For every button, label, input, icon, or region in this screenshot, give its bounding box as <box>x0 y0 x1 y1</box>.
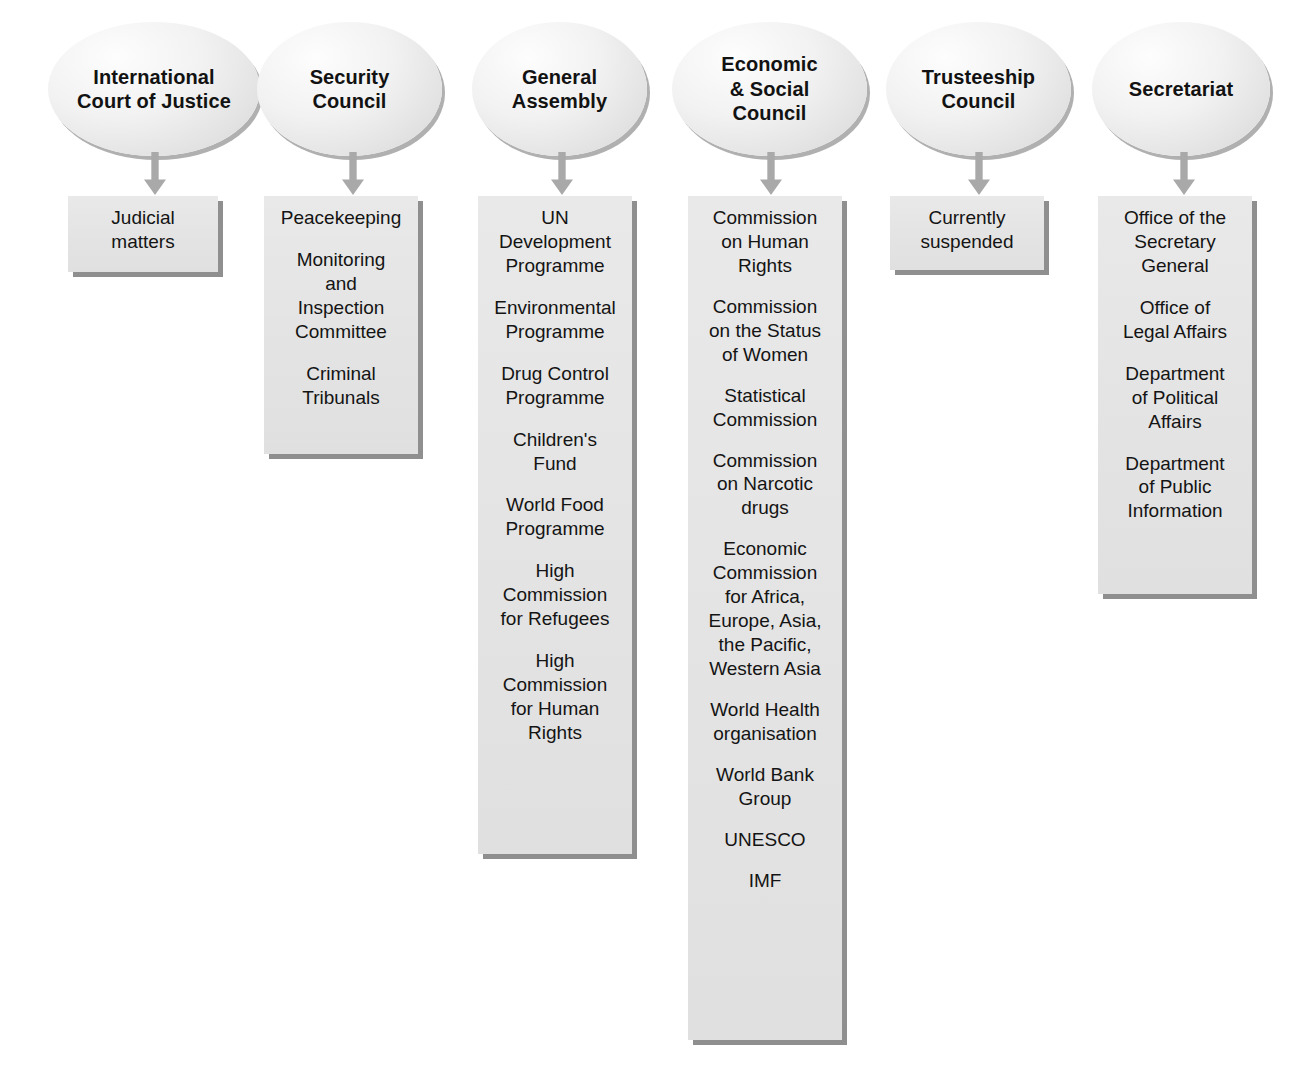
arrow-down-icon <box>758 152 784 196</box>
arrow-down-icon <box>340 152 366 196</box>
box-economic-and-social-council[interactable]: Commission on Human Rights Commission on… <box>688 196 842 1040</box>
list-item: Children's Fund <box>482 428 628 476</box>
list-item: Judicial matters <box>72 206 214 254</box>
list-item: IMF <box>692 869 838 893</box>
list-item: Monitoring and Inspection Committee <box>268 248 414 344</box>
list-item: Commission on the Status of Women <box>692 295 838 367</box>
oval-label: International Court of Justice <box>71 65 237 114</box>
un-structure-diagram: International Court of Justice Judicial … <box>0 0 1312 1069</box>
list-item: Department of Public Information <box>1102 452 1248 524</box>
box-security-council[interactable]: Peacekeeping Monitoring and Inspection C… <box>264 196 418 454</box>
list-item: Currently suspended <box>894 206 1040 254</box>
box-trusteeship-council[interactable]: Currently suspended <box>890 196 1044 270</box>
oval-label: Security Council <box>304 65 396 114</box>
list-item: Economic Commission for Africa, Europe, … <box>692 537 838 681</box>
list-item: High Commission for Human Rights <box>482 649 628 745</box>
list-item: Office of the Secretary General <box>1102 206 1248 278</box>
list-item: World Health organisation <box>692 698 838 746</box>
list-item: World Food Programme <box>482 493 628 541</box>
box-secretariat[interactable]: Office of the Secretary General Office o… <box>1098 196 1252 594</box>
arrow-down-icon <box>966 152 992 196</box>
list-item: Commission on Narcotic drugs <box>692 449 838 521</box>
oval-label: Secretariat <box>1123 77 1240 101</box>
arrow-down-icon <box>549 152 575 196</box>
list-item: Peacekeeping <box>268 206 414 230</box>
oval-label: Trusteeship Council <box>916 65 1041 114</box>
list-item: Criminal Tribunals <box>268 362 414 410</box>
list-item: UN Development Programme <box>482 206 628 278</box>
arrow-down-icon <box>142 152 168 196</box>
box-general-assembly[interactable]: UN Development Programme Environmental P… <box>478 196 632 854</box>
arrow-down-icon <box>1171 152 1197 196</box>
list-item: Statistical Commission <box>692 384 838 432</box>
oval-secretariat[interactable]: Secretariat <box>1092 22 1270 156</box>
list-item: High Commission for Refugees <box>482 559 628 631</box>
list-item: World Bank Group <box>692 763 838 811</box>
oval-label: Economic & Social Council <box>715 52 823 125</box>
list-item: Department of Political Affairs <box>1102 362 1248 434</box>
list-item: Environmental Programme <box>482 296 628 344</box>
list-item: Office of Legal Affairs <box>1102 296 1248 344</box>
oval-economic-and-social-council[interactable]: Economic & Social Council <box>672 22 867 156</box>
list-item: Drug Control Programme <box>482 362 628 410</box>
oval-trusteeship-council[interactable]: Trusteeship Council <box>886 22 1071 156</box>
list-item: Commission on Human Rights <box>692 206 838 278</box>
oval-international-court-of-justice[interactable]: International Court of Justice <box>48 22 260 156</box>
box-international-court-of-justice[interactable]: Judicial matters <box>68 196 218 272</box>
list-item: UNESCO <box>692 828 838 852</box>
oval-label: General Assembly <box>506 65 613 114</box>
oval-security-council[interactable]: Security Council <box>257 22 442 156</box>
oval-general-assembly[interactable]: General Assembly <box>472 22 647 156</box>
